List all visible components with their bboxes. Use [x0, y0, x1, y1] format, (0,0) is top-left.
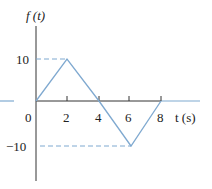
- waveform-line: [36, 59, 161, 146]
- x-tick-label-8: 8: [157, 110, 164, 125]
- y-tick-label-neg10: −10: [6, 139, 26, 154]
- x-tick-label-2: 2: [63, 110, 70, 125]
- y-axis-label: f (t): [26, 8, 45, 23]
- chart: f (t) t (s) 0 2 4 6 8 10 −10: [0, 0, 212, 189]
- x-tick-label-4: 4: [95, 110, 102, 125]
- x-axis-label: t (s): [175, 110, 196, 125]
- x-tick-label-6: 6: [125, 110, 132, 125]
- x-tick-label-0: 0: [25, 110, 32, 125]
- y-tick-label-10: 10: [16, 52, 29, 67]
